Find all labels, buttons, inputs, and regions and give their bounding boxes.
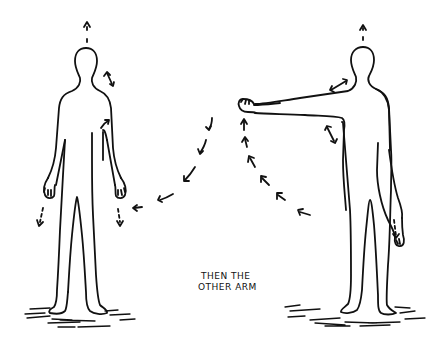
caption-line-1: THEN THE [201,271,311,282]
instruction-caption: THEN THE OTHER ARM [201,271,311,293]
ground-shading [25,305,425,327]
caption-line-2: OTHER ARM [198,282,311,293]
raising-arrows [241,119,310,215]
line-drawing [0,0,438,351]
lowering-arrows [133,118,212,211]
left-figure [37,22,126,314]
exercise-illustration: THEN THE OTHER ARM [0,0,438,351]
